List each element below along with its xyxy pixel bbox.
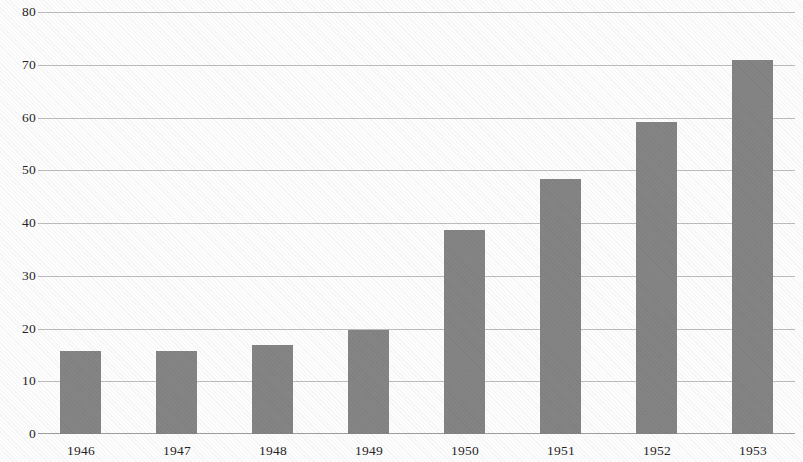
y-tick-label: 30 xyxy=(4,269,36,283)
y-tick-label: 40 xyxy=(4,216,36,230)
gridline-50 xyxy=(38,170,795,171)
bar-1948 xyxy=(252,345,293,434)
gridline-70 xyxy=(38,65,795,66)
bar-1952 xyxy=(636,122,677,434)
bar-1947 xyxy=(156,351,197,434)
gridline-80 xyxy=(38,12,795,13)
y-tick-label: 50 xyxy=(4,164,36,178)
x-tick-label: 1947 xyxy=(163,444,191,458)
x-tick-label: 1952 xyxy=(643,444,671,458)
bar-1950 xyxy=(444,230,485,434)
y-tick-label: 10 xyxy=(4,375,36,389)
plot-area xyxy=(38,12,795,434)
gridline-60 xyxy=(38,118,795,119)
axis-baseline xyxy=(38,433,795,434)
bar-1951 xyxy=(540,179,581,434)
y-tick-label: 70 xyxy=(4,58,36,72)
gridline-10 xyxy=(38,381,795,382)
gridline-40 xyxy=(38,223,795,224)
bar-1949 xyxy=(348,330,389,434)
y-tick-label: 60 xyxy=(4,111,36,125)
gridline-30 xyxy=(38,276,795,277)
x-tick-label: 1948 xyxy=(259,444,287,458)
y-tick-label: 0 xyxy=(4,427,36,441)
bar-1946 xyxy=(60,351,101,434)
bar-1953 xyxy=(732,60,773,434)
x-tick-label: 1946 xyxy=(67,444,95,458)
y-axis: 80 70 60 50 40 30 20 10 0 xyxy=(0,0,36,462)
gridline-20 xyxy=(38,329,795,330)
x-tick-label: 1950 xyxy=(451,444,479,458)
y-tick-label: 20 xyxy=(4,322,36,336)
x-tick-label: 1951 xyxy=(547,444,575,458)
bar-chart: 80 70 60 50 40 30 20 10 0 1946 1947 1948… xyxy=(0,0,803,462)
x-tick-label: 1949 xyxy=(355,444,383,458)
y-tick-label: 80 xyxy=(4,5,36,19)
x-tick-label: 1953 xyxy=(739,444,767,458)
